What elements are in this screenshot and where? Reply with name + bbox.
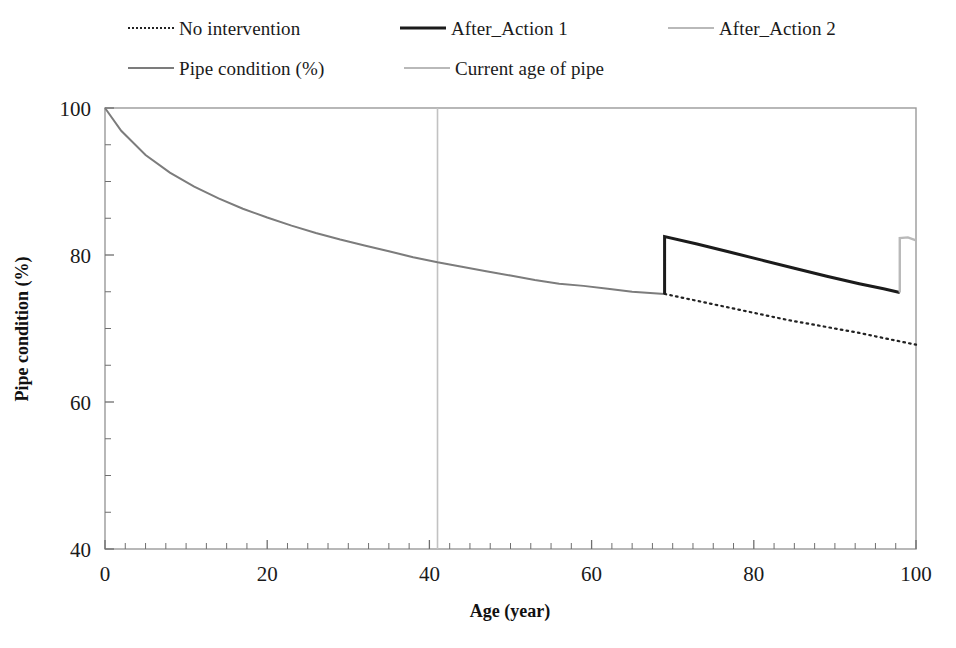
y-tick-label: 100 xyxy=(60,97,92,121)
y-axis-tick-labels: 406080100 xyxy=(60,97,92,562)
x-tick-label: 40 xyxy=(419,562,440,586)
y-tick-label: 60 xyxy=(70,391,91,415)
x-tick-label: 20 xyxy=(257,562,278,586)
x-tick-label: 0 xyxy=(100,562,111,586)
x-tick-label: 100 xyxy=(900,562,932,586)
chart-svg: 020406080100 406080100 Age (year) Pipe c… xyxy=(0,0,956,648)
y-axis-title: Pipe condition (%) xyxy=(12,256,33,401)
plot-frame xyxy=(105,108,916,549)
chart-plot-area: 020406080100 406080100 Age (year) Pipe c… xyxy=(0,0,956,648)
y-tick-label: 40 xyxy=(70,538,91,562)
x-tick-label: 80 xyxy=(743,562,764,586)
x-axis-title: Age (year) xyxy=(470,601,550,622)
x-axis-tick-labels: 020406080100 xyxy=(100,562,932,586)
chart-figure: No intervention After_Action 1 After_Act… xyxy=(0,0,956,648)
x-tick-label: 60 xyxy=(581,562,602,586)
y-tick-label: 80 xyxy=(70,244,91,268)
